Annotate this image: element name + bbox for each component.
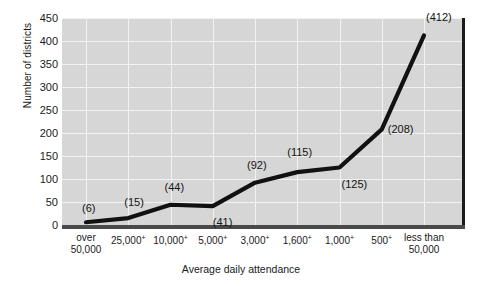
x-tick-label: 25,000+ bbox=[111, 232, 146, 247]
data-point-label: (41) bbox=[213, 216, 233, 228]
x-tick-label: 1,600+ bbox=[283, 232, 312, 247]
y-tick-label: 100 bbox=[40, 174, 58, 184]
x-axis-tick-labels: over50,00025,000+10,000+5,000+3,000+1,60… bbox=[0, 232, 482, 262]
x-axis-baseline bbox=[62, 225, 465, 229]
x-tick-label: 500+ bbox=[371, 232, 392, 247]
y-tick-label: 350 bbox=[40, 59, 58, 69]
x-axis-title: Average daily attendance bbox=[0, 263, 482, 275]
data-point-label: (208) bbox=[388, 123, 414, 135]
y-tick-label: 0 bbox=[52, 220, 58, 230]
series-line-districts bbox=[62, 18, 462, 225]
y-tick-label: 400 bbox=[40, 36, 58, 46]
data-point-label: (412) bbox=[426, 11, 452, 23]
x-tick-label: 10,000+ bbox=[153, 232, 188, 247]
chart-container: Number of districts 05010015020025030035… bbox=[0, 0, 482, 288]
x-tick-label: 3,000+ bbox=[240, 232, 269, 247]
data-point-label: (6) bbox=[82, 202, 95, 214]
y-tick-label: 250 bbox=[40, 105, 58, 115]
data-point-label: (92) bbox=[247, 159, 267, 171]
data-point-label: (15) bbox=[124, 196, 144, 208]
x-tick-label: less than50,000 bbox=[404, 232, 444, 256]
data-point-label: (125) bbox=[342, 178, 368, 190]
data-point-label: (44) bbox=[165, 181, 185, 193]
data-point-label: (115) bbox=[287, 146, 312, 158]
y-tick-label: 150 bbox=[40, 151, 58, 161]
plot-area bbox=[62, 18, 465, 225]
x-tick-label: over50,000 bbox=[71, 232, 102, 256]
x-tick-label: 1,000+ bbox=[325, 232, 354, 247]
x-tick-label: 5,000+ bbox=[198, 232, 227, 247]
y-tick-label: 450 bbox=[40, 13, 58, 23]
y-tick-label: 50 bbox=[46, 197, 58, 207]
y-tick-label: 300 bbox=[40, 82, 58, 92]
y-tick-label: 200 bbox=[40, 128, 58, 138]
